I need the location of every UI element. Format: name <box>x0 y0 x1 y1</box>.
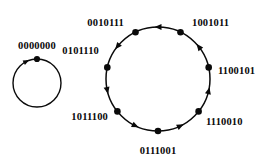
state-dot-0000000 <box>34 56 40 62</box>
state-dot-1110010 <box>195 108 202 115</box>
state-dot-0111001 <box>155 128 162 135</box>
state-label-0111001: 0111001 <box>140 145 177 156</box>
flow-arrow-main-cycle-1 <box>196 44 203 51</box>
cycle-ring-main-cycle <box>106 27 210 131</box>
state-dot-0101110 <box>104 64 111 71</box>
labels-layer: 0000000001011110010111100101111001001110… <box>18 17 255 156</box>
diagram-canvas: 0000000001011110010111100101111001001110… <box>0 0 272 168</box>
state-label-1011100: 1011100 <box>71 111 108 122</box>
cycle-fixed-point-cycle <box>13 56 61 107</box>
state-label-0000000: 0000000 <box>18 40 56 51</box>
flow-arrow-main-cycle-2 <box>205 87 211 94</box>
state-cycle-diagram: 0000000001011110010111100101111001001110… <box>0 0 272 168</box>
state-label-0101110: 0101110 <box>62 45 99 56</box>
state-dot-0010111 <box>132 29 139 36</box>
state-dot-1011100 <box>114 108 121 115</box>
state-label-1001011: 1001011 <box>192 17 229 28</box>
state-label-1110010: 1110010 <box>206 116 243 127</box>
state-dot-1001011 <box>177 29 184 36</box>
state-dot-1100101 <box>205 64 212 71</box>
cycle-ring-fixed-point-cycle <box>13 59 61 107</box>
flow-arrow-main-cycle-0 <box>155 24 162 30</box>
state-label-0010111: 0010111 <box>87 17 124 28</box>
cycle-main-cycle <box>104 24 212 134</box>
state-label-1100101: 1100101 <box>218 65 255 76</box>
